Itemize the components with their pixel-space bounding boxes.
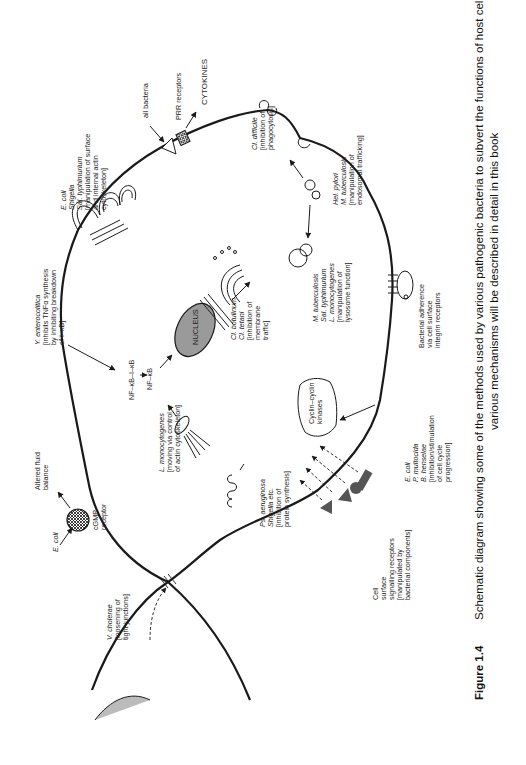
label-e-coli-cgmp: E. coli bbox=[51, 532, 60, 552]
surface-receptors bbox=[320, 469, 372, 514]
lysosome-arrow bbox=[308, 205, 310, 238]
caption-line-1: Schematic diagram showing some of the me… bbox=[473, 0, 485, 620]
cell-cycle-arrow bbox=[340, 405, 375, 420]
svg-text:integrin receptors: integrin receptors bbox=[433, 292, 442, 348]
caption-line-2: various mechanisms will be described in … bbox=[488, 133, 500, 430]
prr-arrow bbox=[150, 126, 164, 142]
figure-caption: Figure 1.4 Schematic diagram showing som… bbox=[473, 0, 500, 700]
svg-text:endosomal trafficking]: endosomal trafficking] bbox=[355, 135, 364, 205]
signal-arrows bbox=[300, 446, 358, 500]
neighbour-nucleus bbox=[95, 696, 150, 720]
label-cytokines: CYTOKINES bbox=[200, 59, 209, 105]
label-cl-botulinum: Cl. botulinum Cl. tetani [inhibition of … bbox=[229, 298, 270, 340]
svg-text:kinases: kinases bbox=[315, 399, 324, 424]
svg-text:phagocytosis]: phagocytosis] bbox=[266, 106, 275, 150]
label-cell-cycle: E. coli P. multocida B. henselae [inhibi… bbox=[403, 415, 452, 482]
svg-text:progression]: progression] bbox=[443, 442, 452, 482]
vesicles-icon bbox=[289, 180, 320, 267]
ribosome-chain-icon bbox=[228, 464, 245, 507]
v-cholerae-arrow bbox=[150, 588, 166, 640]
label-ruffling: E. coli Shigella Sal. typhimurium [manip… bbox=[59, 134, 108, 210]
svg-text:of actin cytoskeleton]: of actin cytoskeleton] bbox=[173, 405, 182, 472]
label-l-monocytogenes-actin: L. monocytogenes [moving via control of … bbox=[157, 405, 182, 472]
label-bacterial-adherence: Bacterial adherence via cell surface int… bbox=[417, 284, 442, 348]
svg-text:receptor: receptor bbox=[99, 503, 108, 530]
endosome-arrow bbox=[290, 160, 303, 178]
svg-text:bacterial components]: bacterial components] bbox=[403, 530, 412, 600]
label-all-bacteria: all bacteria bbox=[141, 83, 150, 118]
label-altered-fluid: Altered fluidbalance bbox=[33, 452, 50, 490]
y-entero-arrow bbox=[68, 345, 115, 370]
fluid-arrow bbox=[58, 492, 70, 508]
svg-text:tight junctions]: tight junctions] bbox=[121, 594, 130, 640]
label-ps-aeruginosa: Ps. aeruginosa Shigella etc. [inhibition… bbox=[258, 471, 291, 527]
cell-diagram: Figure 1.4 Schematic diagram showing som… bbox=[0, 0, 526, 765]
figure-number: Figure 1.4 bbox=[473, 645, 485, 700]
svg-text:balance: balance bbox=[41, 465, 50, 490]
label-lysosome: M. tuberculosis Sal. typhimurium L. mono… bbox=[311, 262, 352, 322]
label-prr-receptors: PRR receptors bbox=[174, 72, 183, 120]
label-cgmp-receptor: cGMPreceptor bbox=[91, 503, 108, 530]
label-nfkb: NF–κB bbox=[145, 368, 154, 390]
cgmp-receptor-icon bbox=[67, 509, 89, 531]
nucleus-label: NUCLEUS bbox=[191, 309, 200, 345]
cytokines-arrow bbox=[186, 112, 196, 128]
label-cyclin-kinases: Cyclin–cyclinkinases bbox=[307, 382, 324, 424]
e-coli-arrow bbox=[60, 528, 72, 545]
label-v-cholerae: V. cholerae [loosening of tight junction… bbox=[105, 594, 130, 640]
nfkb-nucleus-arrow bbox=[160, 355, 172, 368]
svg-text:protein synthesis]: protein synthesis] bbox=[282, 471, 291, 527]
svg-text:of I–κB]: of I–κB] bbox=[57, 321, 66, 345]
svg-text:lysosome function]: lysosome function] bbox=[343, 262, 352, 322]
figure-page: Figure 1.4 Schematic diagram showing som… bbox=[0, 0, 526, 765]
label-endosomal: Hel. pylori M. tuberculosis [manipulatio… bbox=[331, 135, 364, 205]
svg-text:cytoskeleton]: cytoskeleton] bbox=[99, 168, 108, 210]
svg-text:traffic]: traffic] bbox=[261, 321, 270, 340]
label-cell-surface-receptors: Cell surface signalling receptors [manip… bbox=[371, 530, 412, 600]
label-nfkb-complex: NF–κB–I–κB bbox=[127, 359, 136, 400]
